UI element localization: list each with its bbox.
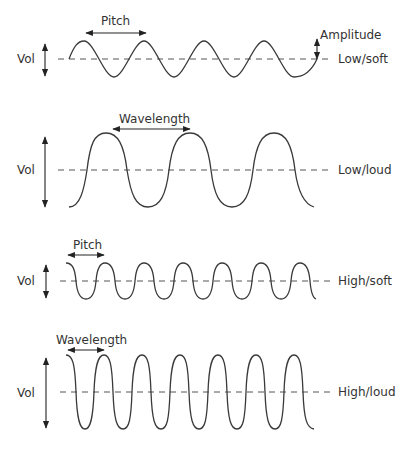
panel-high-soft: Vol Pitch High/soft <box>17 238 392 299</box>
vol-label: Vol <box>17 274 35 288</box>
wavelength-label: Wavelength <box>119 112 190 126</box>
panel-low-soft: Vol Pitch Amplitude Low/soft <box>17 14 388 77</box>
vol-label: Vol <box>17 52 35 66</box>
waveform-high-loud <box>66 355 314 429</box>
wavelength-label: Wavelength <box>56 333 127 347</box>
low-soft-label: Low/soft <box>338 52 388 66</box>
pitch-label: Pitch <box>73 238 102 252</box>
waveform-high-soft <box>66 263 316 299</box>
high-soft-label: High/soft <box>338 274 392 288</box>
vol-label: Vol <box>17 163 35 177</box>
amplitude-label: Amplitude <box>320 28 382 42</box>
panel-high-loud: Vol Wavelength High/loud <box>17 333 396 429</box>
sound-wave-diagram: Vol Pitch Amplitude Low/soft Vol Wavelen… <box>0 0 408 457</box>
high-loud-label: High/loud <box>338 385 396 399</box>
panel-low-loud: Vol Wavelength Low/loud <box>17 112 392 207</box>
vol-label: Vol <box>17 386 35 400</box>
pitch-label: Pitch <box>101 14 130 28</box>
low-loud-label: Low/loud <box>338 163 392 177</box>
